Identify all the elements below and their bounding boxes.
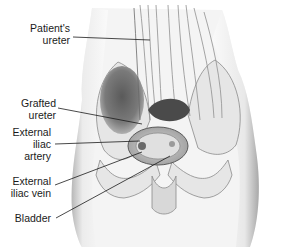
bladder-organ [128,127,188,165]
label-line: iliac vein [11,187,51,199]
label-external-iliac-vein: External iliac vein [11,175,51,199]
label-line: External [11,175,51,187]
label-bladder: Bladder [15,212,51,224]
label-grafted-ureter: Grafted ureter [21,97,56,121]
label-line: artery [12,150,51,162]
label-line: Patient's [30,22,70,34]
label-patients-ureter: Patient's ureter [30,22,70,46]
label-line: Grafted [21,97,56,109]
label-line: iliac [12,138,51,150]
label-line: ureter [21,109,56,121]
label-line: Bladder [15,212,51,224]
label-external-iliac-artery: External iliac artery [12,126,51,162]
label-line: External [12,126,51,138]
label-line: ureter [30,34,70,46]
